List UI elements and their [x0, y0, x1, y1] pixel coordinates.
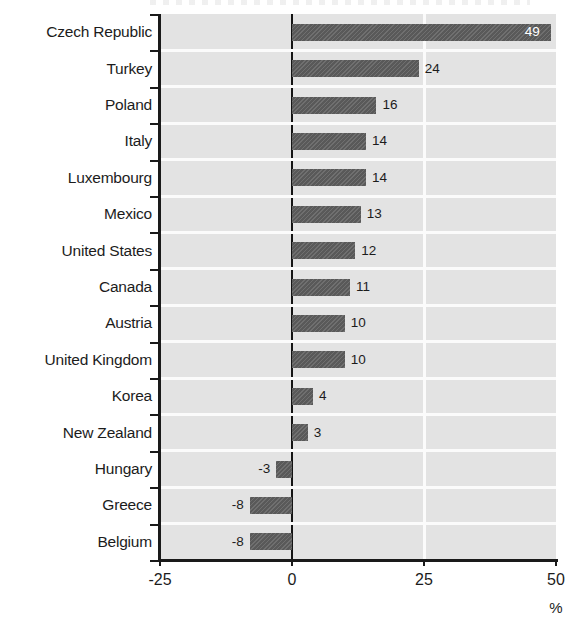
- y-axis-tick: [150, 123, 161, 125]
- value-label: 11: [356, 280, 370, 294]
- x-axis-unit-label: %: [549, 600, 562, 615]
- value-label: -8: [232, 498, 244, 512]
- y-axis-tick: [150, 560, 161, 562]
- value-label: 4: [319, 389, 327, 403]
- horizontal-gridline: [160, 231, 556, 234]
- bar: [292, 279, 350, 296]
- category-label: United States: [4, 243, 152, 259]
- horizontal-gridline: [160, 449, 556, 452]
- x-axis-tick-label: -25: [148, 572, 171, 588]
- value-label: 24: [425, 62, 440, 76]
- vertical-gridline: [423, 14, 426, 560]
- category-label: Hungary: [4, 461, 152, 477]
- bar: [276, 461, 292, 478]
- bar: [292, 206, 361, 223]
- bar: [292, 242, 355, 259]
- bar: [292, 424, 308, 441]
- x-axis-tick: [555, 559, 557, 566]
- x-axis-tick-label: 25: [415, 572, 433, 588]
- y-axis-tick: [150, 14, 161, 16]
- horizontal-gridline: [160, 267, 556, 270]
- x-axis-tick: [423, 559, 425, 566]
- y-axis-tick: [150, 524, 161, 526]
- bar-chart: Czech RepublicTurkeyPolandItalyLuxembour…: [0, 0, 566, 631]
- horizontal-gridline: [160, 413, 556, 416]
- value-label: 10: [351, 316, 366, 330]
- value-label: 3: [314, 426, 322, 440]
- value-label: 14: [372, 171, 387, 185]
- category-label: Czech Republic: [4, 24, 152, 40]
- x-axis-line: [158, 559, 558, 562]
- bar: [292, 60, 419, 77]
- horizontal-gridline: [160, 158, 556, 161]
- category-label: Austria: [4, 315, 152, 331]
- value-label: 12: [361, 244, 376, 258]
- x-axis-tick: [291, 559, 293, 566]
- value-label: -8: [232, 535, 244, 549]
- y-axis-tick: [150, 87, 161, 89]
- horizontal-gridline: [160, 522, 556, 525]
- bar: [250, 533, 292, 550]
- horizontal-gridline: [160, 85, 556, 88]
- horizontal-gridline: [160, 486, 556, 489]
- category-label: New Zealand: [4, 425, 152, 441]
- horizontal-gridline: [160, 49, 556, 52]
- bar: [292, 315, 345, 332]
- y-axis-tick: [150, 414, 161, 416]
- category-axis-labels: Czech RepublicTurkeyPolandItalyLuxembour…: [0, 0, 152, 631]
- value-label: 16: [382, 98, 397, 112]
- category-label: Korea: [4, 388, 152, 404]
- category-label: Poland: [4, 97, 152, 113]
- horizontal-gridline: [160, 195, 556, 198]
- y-axis-tick: [150, 232, 161, 234]
- horizontal-gridline: [160, 377, 556, 380]
- bar: [292, 24, 551, 41]
- y-axis-tick: [150, 160, 161, 162]
- y-axis-tick: [150, 487, 161, 489]
- category-label: United Kingdom: [4, 352, 152, 368]
- value-label: -3: [258, 462, 270, 476]
- horizontal-gridline: [160, 122, 556, 125]
- category-label: Turkey: [4, 61, 152, 77]
- category-label: Mexico: [4, 206, 152, 222]
- value-label: 13: [367, 207, 382, 221]
- cropped-title-sliver: [150, 0, 530, 5]
- bar: [292, 169, 366, 186]
- value-label: 49: [525, 25, 540, 39]
- category-label: Canada: [4, 279, 152, 295]
- bar: [292, 133, 366, 150]
- y-axis-tick: [150, 305, 161, 307]
- bar: [292, 97, 376, 114]
- category-label: Belgium: [4, 534, 152, 550]
- category-label: Italy: [4, 133, 152, 149]
- y-axis-tick: [150, 451, 161, 453]
- y-axis-tick: [150, 269, 161, 271]
- y-axis-tick: [150, 50, 161, 52]
- y-axis-tick: [150, 196, 161, 198]
- category-label: Greece: [4, 497, 152, 513]
- horizontal-gridline: [160, 304, 556, 307]
- y-axis-line: [158, 14, 161, 562]
- horizontal-gridline: [160, 340, 556, 343]
- bar: [292, 388, 313, 405]
- value-label: 14: [372, 134, 387, 148]
- x-axis-tick-label: 50: [547, 572, 565, 588]
- y-axis-tick: [150, 342, 161, 344]
- category-label: Luxembourg: [4, 170, 152, 186]
- value-label: 10: [351, 353, 366, 367]
- bar: [250, 497, 292, 514]
- y-axis-tick: [150, 378, 161, 380]
- x-axis-tick-label: 0: [288, 572, 297, 588]
- bar: [292, 351, 345, 368]
